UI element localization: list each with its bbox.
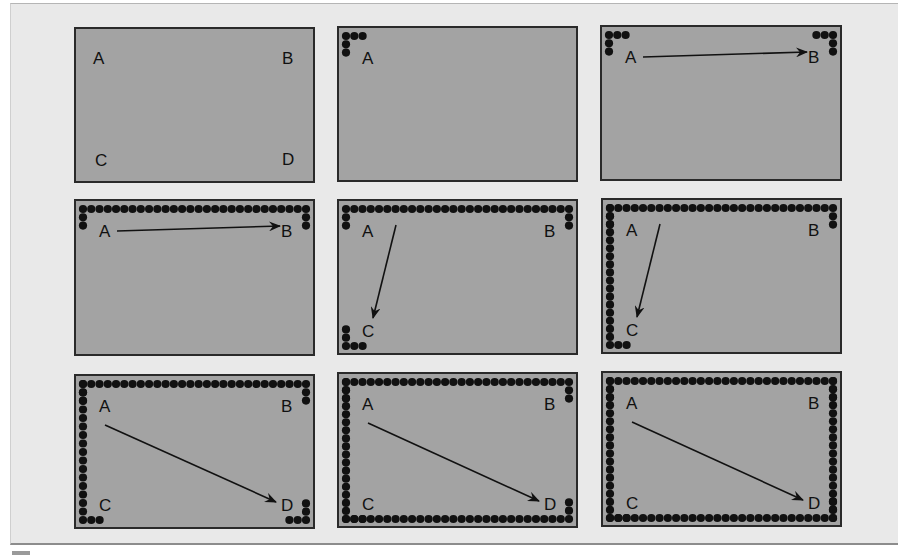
dot <box>350 378 358 386</box>
corner-label-b: B <box>808 394 819 413</box>
dot <box>722 514 730 522</box>
dot <box>87 380 95 388</box>
dot <box>79 422 87 430</box>
dot <box>474 515 482 523</box>
dot <box>458 378 466 386</box>
dot <box>730 514 738 522</box>
dot <box>342 418 350 426</box>
dot <box>605 39 613 47</box>
dot <box>391 515 399 523</box>
dot <box>79 499 87 507</box>
dot <box>829 48 837 56</box>
dot <box>137 205 145 213</box>
dot <box>128 205 136 213</box>
dot <box>606 212 614 220</box>
dot <box>342 334 350 342</box>
dot <box>804 204 812 212</box>
dot <box>606 260 614 268</box>
dot <box>342 394 350 402</box>
dot <box>491 378 499 386</box>
dot <box>829 506 837 514</box>
dot <box>367 515 375 523</box>
dot <box>605 31 613 39</box>
dot <box>482 378 490 386</box>
dot <box>219 380 227 388</box>
dot <box>655 377 663 385</box>
dot <box>606 490 614 498</box>
dot <box>606 498 614 506</box>
dot <box>499 205 507 213</box>
corner-label-d: D <box>281 496 293 515</box>
dot <box>672 204 680 212</box>
dot <box>697 514 705 522</box>
dot <box>763 377 771 385</box>
dot <box>540 205 548 213</box>
dot <box>688 204 696 212</box>
dot <box>367 378 375 386</box>
dot <box>606 333 614 341</box>
dot <box>755 377 763 385</box>
dot <box>178 205 186 213</box>
dot <box>474 378 482 386</box>
dot <box>342 450 350 458</box>
dot <box>788 514 796 522</box>
dot <box>829 212 837 220</box>
dot <box>342 386 350 394</box>
corner-label-a: A <box>362 49 374 68</box>
dot <box>771 204 779 212</box>
dot <box>350 515 358 523</box>
dot <box>145 380 153 388</box>
dot <box>294 205 302 213</box>
panel-frame <box>75 200 314 355</box>
dot <box>788 204 796 212</box>
dot <box>540 378 548 386</box>
dot <box>647 514 655 522</box>
dot <box>342 213 350 221</box>
dot <box>79 388 87 396</box>
dot <box>606 236 614 244</box>
dot <box>277 205 285 213</box>
dot <box>606 449 614 457</box>
dot <box>342 32 350 40</box>
corner-label-c: C <box>362 495 374 514</box>
dot <box>771 377 779 385</box>
dot <box>441 378 449 386</box>
dot <box>261 380 269 388</box>
dot <box>261 205 269 213</box>
dot <box>738 377 746 385</box>
dot <box>738 204 746 212</box>
dot <box>532 205 540 213</box>
dot <box>565 205 573 213</box>
dot <box>400 515 408 523</box>
dot <box>713 377 721 385</box>
dot <box>302 388 310 396</box>
dot <box>746 204 754 212</box>
dot <box>606 301 614 309</box>
corner-label-b: B <box>282 49 293 68</box>
dot <box>79 380 87 388</box>
corner-label-c: C <box>626 494 638 513</box>
panel-5: ABC <box>338 200 577 354</box>
dot <box>606 341 614 349</box>
dot <box>302 380 310 388</box>
dot <box>606 385 614 393</box>
dot <box>79 439 87 447</box>
dot <box>416 515 424 523</box>
dot <box>829 490 837 498</box>
dot <box>358 205 366 213</box>
corner-label-a: A <box>626 221 638 240</box>
dot <box>178 380 186 388</box>
dot <box>342 491 350 499</box>
corner-label-c: C <box>362 322 374 341</box>
dot <box>829 31 837 39</box>
panel-2: A <box>338 27 577 181</box>
dot <box>383 205 391 213</box>
dot <box>302 222 310 230</box>
dot <box>713 514 721 522</box>
dot <box>829 39 837 47</box>
dot <box>606 506 614 514</box>
dot <box>342 410 350 418</box>
dot <box>557 515 565 523</box>
dot <box>515 378 523 386</box>
dot <box>557 205 565 213</box>
